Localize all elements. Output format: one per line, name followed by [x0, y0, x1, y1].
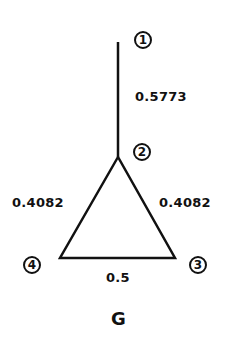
- triangle-edges: [60, 157, 175, 258]
- graph-edges: [0, 0, 231, 343]
- node-3: 3: [189, 256, 207, 274]
- graph-title: G: [111, 308, 126, 329]
- node-4: 4: [23, 256, 41, 274]
- edge-weight-1-2: 0.5773: [135, 89, 187, 104]
- node-1: 1: [134, 31, 152, 49]
- edge-weight-2-4: 0.4082: [12, 195, 64, 210]
- edge-weight-2-3: 0.4082: [159, 195, 211, 210]
- edge-weight-4-3: 0.5: [106, 270, 130, 285]
- node-2: 2: [133, 143, 151, 161]
